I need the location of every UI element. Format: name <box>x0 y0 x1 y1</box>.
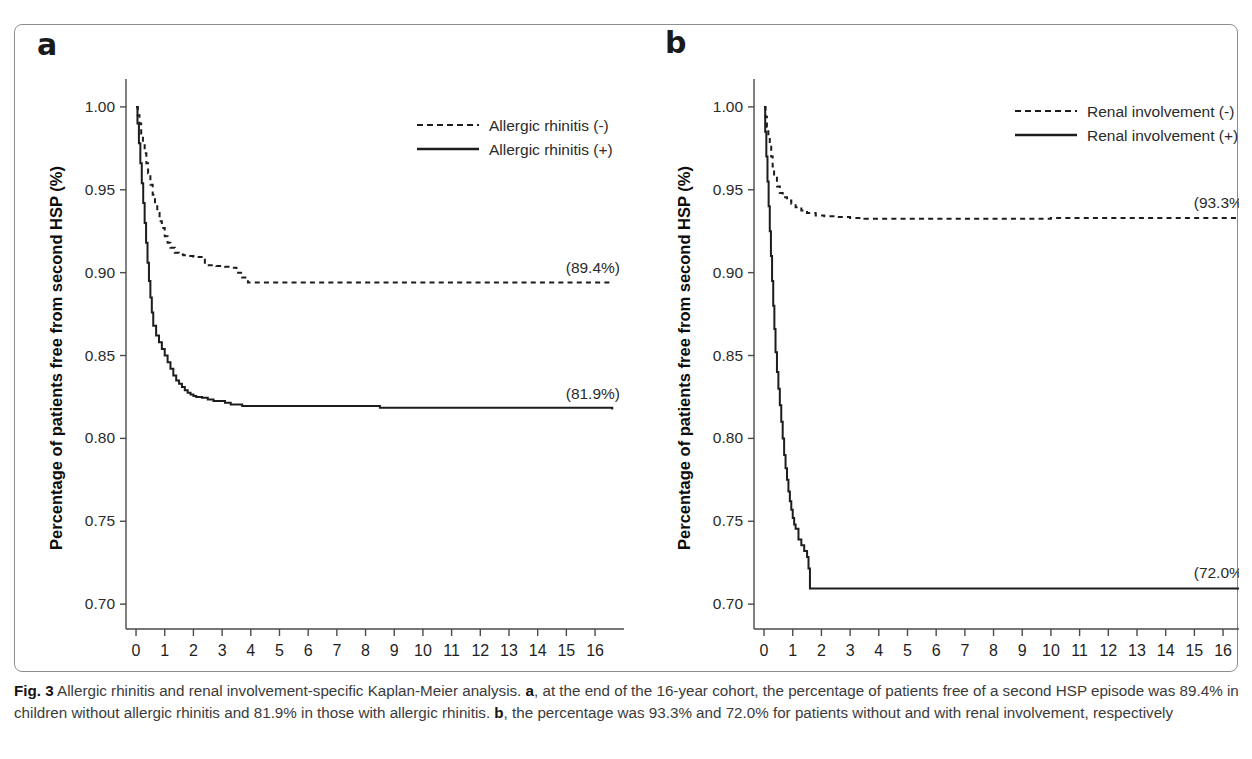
x-tick-label: 15 <box>1185 642 1203 659</box>
x-tick-label: 14 <box>1157 642 1175 659</box>
y-tick-label: 0.85 <box>713 347 743 364</box>
panel-b-plot: 0.700.750.800.850.900.951.00012345678910… <box>627 25 1239 673</box>
figure-caption: Fig. 3 Allergic rhinitis and renal invol… <box>14 680 1242 723</box>
endpoint-label: (93.3%) <box>1194 194 1239 211</box>
x-tick-label: 4 <box>874 642 883 659</box>
x-tick-label: 9 <box>1018 642 1027 659</box>
x-tick-label: 0 <box>132 642 141 659</box>
y-tick-label: 0.80 <box>85 429 116 446</box>
x-tick-label: 2 <box>189 642 198 659</box>
x-tick-label: 12 <box>471 642 489 659</box>
x-tick-label: 5 <box>903 642 912 659</box>
caption-segment-b: , the percentage was 93.3% and 72.0% for… <box>504 704 1173 721</box>
panel-b: b 0.700.750.800.850.900.951.000123456789… <box>627 25 1239 673</box>
y-axis-title: Percentage of patients free from second … <box>47 166 65 550</box>
y-tick-label: 1.00 <box>85 98 116 115</box>
y-tick-label: 0.75 <box>85 512 115 529</box>
y-tick-label: 0.75 <box>713 512 743 529</box>
y-tick-label: 0.85 <box>85 347 115 364</box>
x-tick-label: 6 <box>932 642 941 659</box>
caption-figure-number: Fig. 3 <box>14 682 54 699</box>
x-tick-label: 8 <box>361 642 370 659</box>
x-tick-label: 9 <box>390 642 399 659</box>
km-curve-positive <box>764 107 1239 589</box>
y-tick-label: 0.95 <box>713 181 743 198</box>
figure-container: a 0.700.750.800.850.900.951.000123456789… <box>14 24 1238 672</box>
endpoint-label: (89.4%) <box>566 259 620 276</box>
legend-label: Renal involvement (+) <box>1087 127 1238 144</box>
panel-a: a 0.700.750.800.850.900.951.000123456789… <box>15 25 627 673</box>
km-curve-negative <box>764 107 1239 219</box>
y-tick-label: 0.70 <box>713 595 744 612</box>
x-tick-label: 15 <box>557 642 575 659</box>
y-tick-label: 0.90 <box>85 264 116 281</box>
x-tick-label: 7 <box>332 642 341 659</box>
y-axis-title: Percentage of patients free from second … <box>675 166 693 550</box>
caption-ref-b: b <box>494 704 503 721</box>
x-tick-label: 16 <box>1214 642 1232 659</box>
x-axis-title: Follow-up time (years) <box>290 671 465 673</box>
legend-label: Renal involvement (-) <box>1087 103 1234 120</box>
y-tick-label: 1.00 <box>713 98 744 115</box>
x-tick-label: 4 <box>246 642 255 659</box>
x-tick-label: 12 <box>1099 642 1117 659</box>
y-tick-label: 0.70 <box>85 595 116 612</box>
x-tick-label: 5 <box>275 642 284 659</box>
x-tick-label: 13 <box>500 642 518 659</box>
caption-intro: Allergic rhinitis and renal involvement-… <box>54 682 526 699</box>
x-tick-label: 14 <box>529 642 547 659</box>
x-tick-label: 1 <box>788 642 797 659</box>
x-tick-label: 0 <box>760 642 769 659</box>
x-tick-label: 3 <box>218 642 227 659</box>
x-tick-label: 1 <box>160 642 169 659</box>
x-tick-label: 13 <box>1128 642 1146 659</box>
legend-label: Allergic rhinitis (-) <box>489 117 609 134</box>
x-tick-label: 11 <box>443 642 460 659</box>
x-tick-label: 2 <box>817 642 826 659</box>
y-tick-label: 0.95 <box>85 181 115 198</box>
x-tick-label: 3 <box>846 642 855 659</box>
x-tick-label: 8 <box>989 642 998 659</box>
x-tick-label: 7 <box>960 642 969 659</box>
caption-ref-a: a <box>526 682 534 699</box>
x-tick-label: 6 <box>304 642 313 659</box>
y-tick-label: 0.90 <box>713 264 744 281</box>
x-tick-label: 11 <box>1071 642 1088 659</box>
y-tick-label: 0.80 <box>713 429 744 446</box>
panel-a-plot: 0.700.750.800.850.900.951.00012345678910… <box>15 25 627 673</box>
x-tick-label: 10 <box>1042 642 1060 659</box>
x-tick-label: 16 <box>586 642 604 659</box>
legend-label: Allergic rhinitis (+) <box>489 141 613 158</box>
x-tick-label: 10 <box>414 642 432 659</box>
x-axis-title: Follow-up time (years) <box>918 671 1093 673</box>
endpoint-label: (81.9%) <box>566 385 620 402</box>
endpoint-label: (72.0%) <box>1194 564 1239 581</box>
